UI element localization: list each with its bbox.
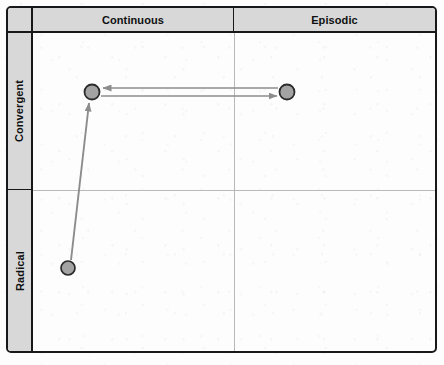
plot-overlay (0, 0, 444, 365)
arrow-group (71, 88, 278, 260)
point-convergent-continuous (85, 85, 100, 100)
marker-group (61, 85, 295, 276)
arrow-radical-to-convergent (71, 103, 89, 260)
point-convergent-episodic (280, 85, 295, 100)
innovation-matrix-figure: Continuous Episodic Convergent Radical (0, 0, 444, 365)
point-radical-continuous (61, 261, 75, 275)
